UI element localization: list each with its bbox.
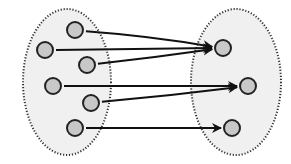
node-a4 xyxy=(45,78,61,94)
node-b1 xyxy=(215,40,231,56)
arrow-a1-to-b1 xyxy=(86,31,212,46)
node-a2 xyxy=(37,42,53,58)
node-a1 xyxy=(67,22,83,38)
node-a3 xyxy=(79,57,95,73)
mapping-diagram xyxy=(0,0,291,164)
node-b3 xyxy=(224,120,240,136)
node-a6 xyxy=(67,120,83,136)
node-b2 xyxy=(240,78,256,94)
node-a5 xyxy=(83,95,99,111)
